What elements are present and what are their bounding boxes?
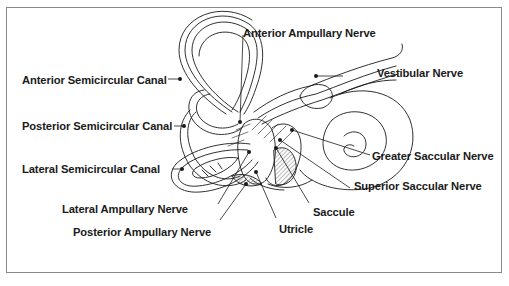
label-utricle: Utricle	[279, 223, 313, 236]
label-greater-saccular-nerve: Greater Saccular Nerve	[372, 150, 494, 163]
label-superior-saccular-nerve: Superior Saccular Nerve	[354, 180, 482, 193]
label-anterior-semicircular-canal: Anterior Semicircular Canal	[22, 74, 167, 87]
label-anterior-ampullary-nerve: Anterior Ampullary Nerve	[243, 27, 376, 40]
label-lateral-ampullary-nerve: Lateral Ampullary Nerve	[62, 203, 188, 216]
hatched-macula-1	[274, 148, 296, 185]
label-posterior-ampullary-nerve: Posterior Ampullary Nerve	[73, 226, 211, 239]
vestibular-nerve-shape	[254, 44, 403, 124]
label-vestibular-nerve: Vestibular Nerve	[377, 67, 463, 80]
inner-ear-illustration	[0, 0, 509, 286]
label-saccule: Saccule	[313, 206, 355, 219]
label-lateral-semicircular-canal: Lateral Semicircular Canal	[22, 163, 160, 176]
saccule-spiral-shape	[300, 91, 413, 190]
label-posterior-semicircular-canal: Posterior Semicircular Canal	[22, 120, 172, 133]
